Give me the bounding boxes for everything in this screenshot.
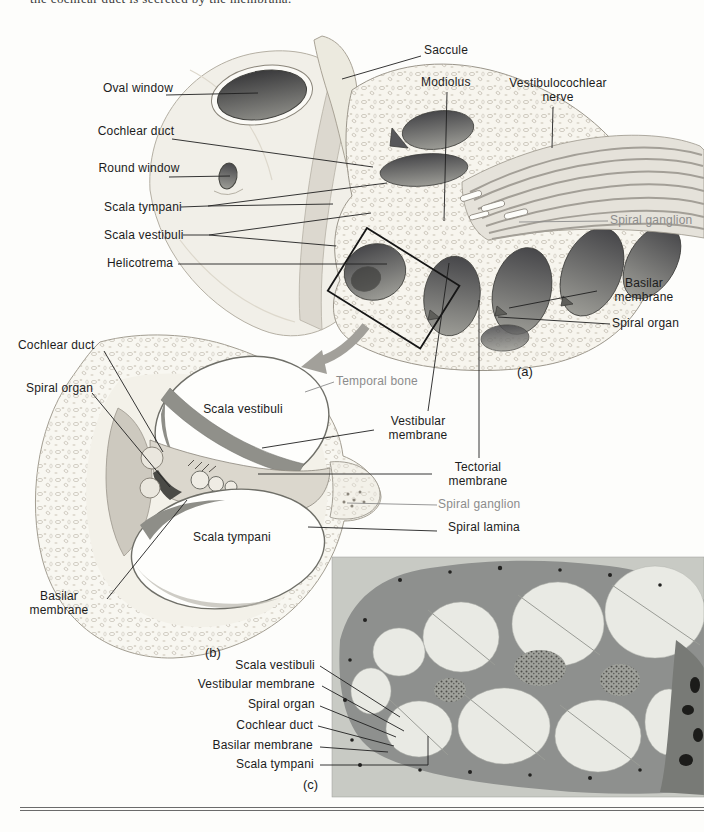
- label-spiral-organ-b: Spiral organ: [26, 381, 93, 395]
- label-cochlear-duct-a: Cochlear duct: [91, 124, 181, 138]
- label-basilar-membrane-b: Basilar membrane: [15, 589, 103, 617]
- label-cochlear-duct-b: Cochlear duct: [18, 338, 95, 352]
- label-oval-window: Oval window: [93, 81, 183, 95]
- label-scala-vestibuli-b: Scala vestibuli: [197, 402, 289, 416]
- label-cochlear-duct-c: Cochlear duct: [236, 718, 313, 732]
- label-basilar-membrane-c: Basilar membrane: [212, 738, 313, 752]
- label-spiral-lamina: Spiral lamina: [438, 520, 530, 534]
- panel-b-tag: (b): [205, 645, 221, 660]
- label-scala-tympani-a: Scala tympani: [104, 200, 182, 214]
- label-spiral-organ-c: Spiral organ: [248, 697, 315, 711]
- textbook-figure-page: the cochlear duct is secreted by the mem…: [0, 0, 704, 832]
- label-helicotrema: Helicotrema: [107, 256, 173, 270]
- label-spiral-ganglion-b: Spiral ganglion: [438, 497, 520, 511]
- cochlea-micrograph: [332, 557, 704, 797]
- label-scala-vestibuli-a: Scala vestibuli: [104, 228, 184, 242]
- label-tectorial-membrane: Tectorial membrane: [432, 460, 524, 488]
- label-vestibular-membrane-c: Vestibular membrane: [198, 677, 315, 691]
- label-round-window: Round window: [94, 161, 184, 175]
- label-spiral-organ-a: Spiral organ: [612, 316, 679, 330]
- label-saccule: Saccule: [424, 43, 468, 57]
- label-temporal-bone: Temporal bone: [336, 374, 418, 388]
- label-scala-vestibuli-c: Scala vestibuli: [235, 658, 315, 672]
- label-basilar-membrane-a: Basilar membrane: [600, 276, 688, 304]
- label-scala-tympani-b: Scala tympani: [186, 530, 278, 544]
- label-vestibulocochlear-nerve: Vestibulocochlear nerve: [502, 76, 614, 104]
- label-modiolus: Modiolus: [421, 75, 471, 89]
- panel-c-tag: (c): [303, 777, 318, 792]
- label-vestibular-membrane-b: Vestibular membrane: [372, 414, 464, 442]
- label-scala-tympani-c: Scala tympani: [236, 757, 314, 771]
- label-spiral-ganglion-a: Spiral ganglion: [610, 213, 692, 227]
- double-rule: [20, 808, 704, 811]
- panel-a-tag: (a): [517, 364, 533, 379]
